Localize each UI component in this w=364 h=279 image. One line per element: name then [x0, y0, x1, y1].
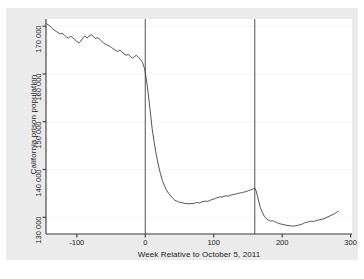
- series-line-0: [46, 23, 338, 226]
- x-tick-label: 100: [194, 238, 234, 247]
- chart-figure: 130 000140 000150 000160 000170 000 -100…: [0, 0, 364, 279]
- x-axis-title: Week Relative to October 5, 2011: [46, 250, 352, 259]
- data-series: [46, 23, 338, 226]
- chart-svg: [0, 0, 364, 279]
- y-axis-title: California prison population: [29, 25, 38, 225]
- tick-marks: [43, 26, 351, 237]
- axis-lines: [46, 19, 352, 234]
- x-tick-label: 200: [262, 238, 302, 247]
- reference-lines: [145, 19, 255, 234]
- x-tick-label: 300: [331, 238, 364, 247]
- x-tick-label: 0: [125, 238, 165, 247]
- x-tick-label: -100: [57, 238, 97, 247]
- gridlines: [46, 26, 352, 217]
